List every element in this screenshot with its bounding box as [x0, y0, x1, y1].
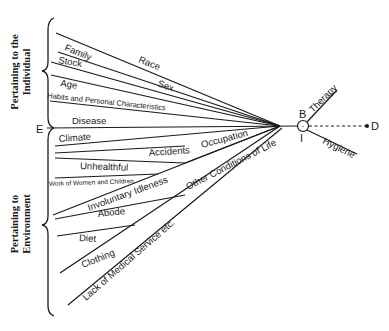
label-unhealthful: Unhealthful [80, 160, 128, 173]
group-label-environment: Pertaining to Environment [9, 194, 32, 254]
label-abode: Abode [97, 205, 125, 219]
label-sex: Sex [156, 78, 175, 94]
label-work: Work of Women and Children [49, 177, 135, 187]
brace-environment [42, 128, 54, 316]
causation-diagram: - E B I D Pertaining to the Individual P… [0, 0, 389, 331]
svg-text:Individual: Individual [21, 49, 32, 96]
label-age: Age [60, 77, 79, 91]
point-b: B [299, 108, 306, 120]
svg-text:Pertaining to: Pertaining to [9, 195, 20, 254]
label-clothing: Clothing [80, 247, 116, 270]
node-d-dot [365, 124, 369, 128]
label-diet: Diet [79, 232, 97, 244]
diagram-stage: - E B I D Pertaining to the Individual P… [0, 0, 389, 331]
svg-text:Pertaining to the: Pertaining to the [9, 34, 20, 110]
label-occupation: Occupation [200, 127, 249, 150]
label-race: Race [137, 54, 162, 73]
label-climate: Climate [58, 131, 91, 144]
label-hygiene: Hygiene [321, 135, 357, 160]
svg-text:Environment: Environment [21, 194, 32, 254]
point-e: E [36, 123, 43, 135]
point-d: D [371, 120, 379, 132]
label-therapy: Therapy [307, 82, 340, 115]
brace-individual [42, 18, 54, 128]
label-disease: Disease [72, 115, 106, 126]
label-accidents: Accidents [148, 144, 190, 158]
label-habits: Habits and Personal Characteristics [47, 91, 167, 112]
point-i: I [300, 132, 303, 144]
group-label-individual: Pertaining to the Individual [9, 34, 32, 110]
